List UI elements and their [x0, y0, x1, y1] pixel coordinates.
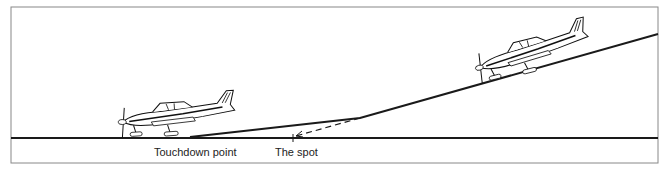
figure-frame — [11, 7, 658, 163]
airplane-touchdown — [117, 90, 237, 139]
touchdown-point-label: Touchdown point — [154, 146, 237, 158]
flight-path — [190, 34, 658, 137]
landing-diagram — [0, 0, 667, 174]
airplane-approach — [470, 17, 593, 85]
the-spot-label: The spot — [275, 146, 318, 158]
